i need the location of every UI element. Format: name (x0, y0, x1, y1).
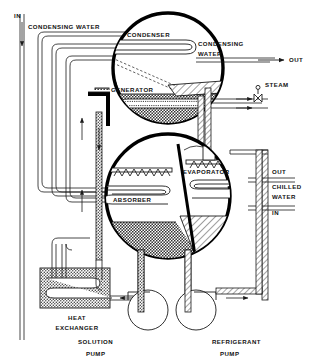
condensing-water-inlet-name: CONDENSING WATER (28, 23, 100, 31)
condensing-water-out-name-line2: WATER (198, 50, 222, 58)
chilled-water-in-label: IN (272, 209, 279, 217)
condensing-water-out-label: OUT (289, 56, 303, 64)
strong-solution-drop-leg (96, 112, 102, 260)
heat-exchanger-label-line2: EXCHANGER (44, 324, 110, 332)
condenser-label: CONDENSER (127, 31, 170, 39)
condenser-tube-bundle (110, 40, 196, 54)
chilled-water-name-line2: WATER (272, 193, 296, 201)
generator-label: GENERATOR (111, 86, 153, 94)
condensing-water-out-name-line1: CONDENSING (198, 40, 244, 48)
absorber-label: ABSORBER (113, 196, 151, 204)
chilled-water-name-line1: CHILLED (272, 183, 302, 191)
evaporator-label: EVAPORATOR (183, 168, 229, 176)
chilled-water-out-label: OUT (272, 168, 286, 176)
solution-pump-label-line2: PUMP (86, 350, 105, 358)
refrigerant-drop-leg (205, 88, 211, 150)
heat-exchanger-label-line1: HEAT (54, 314, 100, 322)
diagram-canvas (0, 0, 321, 364)
refrigerant-pump-label-line2: PUMP (220, 350, 239, 358)
refrigerant-pump-label-line1: REFRIGERANT (212, 338, 261, 346)
solution-pump-label-line1: SOLUTION (78, 338, 113, 346)
steam-label: STEAM (265, 81, 289, 89)
condensing-water-in-label: IN (14, 12, 21, 20)
absorption-chiller-diagram: IN CONDENSING WATER CONDENSER CONDENSING… (0, 0, 321, 364)
